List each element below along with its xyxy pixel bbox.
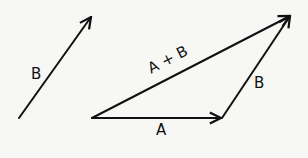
vector-b-free: B <box>19 17 91 118</box>
vector-addition-diagram: B A B A + B <box>0 0 308 158</box>
vector-b-free-label: B <box>31 65 41 83</box>
vector-b-label: B <box>254 74 264 92</box>
vector-b-free-arrow <box>19 17 91 118</box>
vector-a-label: A <box>156 121 167 139</box>
vector-b-arrow <box>222 16 290 118</box>
vector-sum-label: A + B <box>145 42 191 77</box>
vector-a: A <box>92 118 221 139</box>
vector-sum: A + B <box>92 16 290 118</box>
vector-sum-arrow <box>92 16 290 118</box>
vector-b: B <box>222 16 290 118</box>
